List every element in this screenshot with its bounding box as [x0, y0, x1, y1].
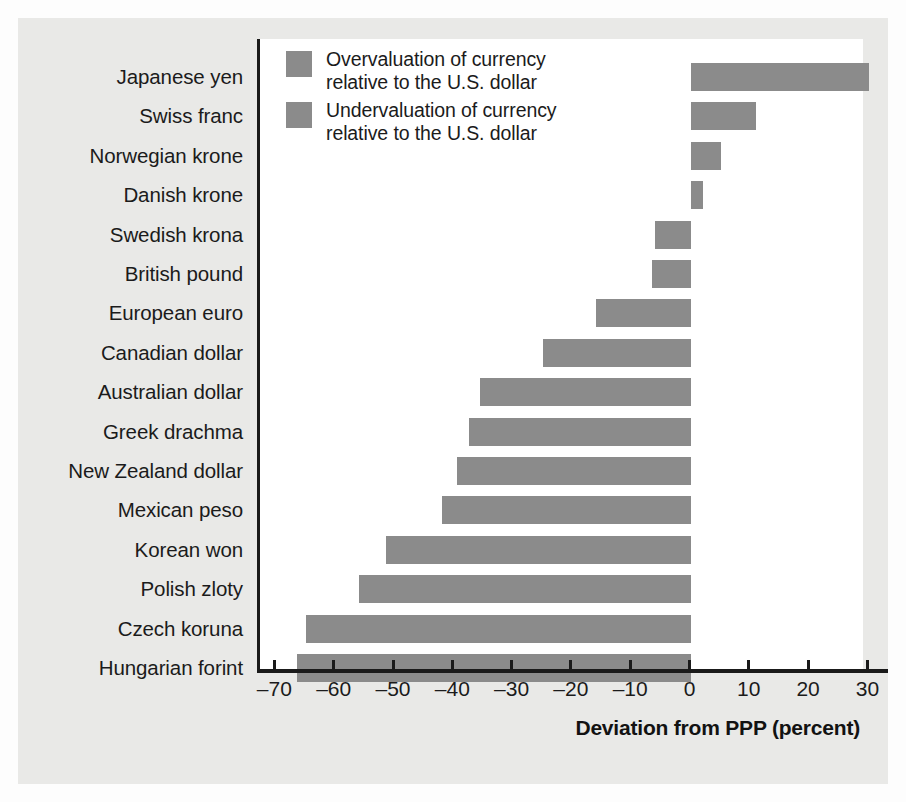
bar: [691, 181, 703, 209]
bar: [543, 339, 691, 367]
y-axis-label: European euro: [109, 302, 243, 324]
bar: [691, 102, 756, 130]
x-axis-tick-label: 30: [856, 677, 879, 701]
x-axis-tick: [273, 660, 276, 669]
x-axis-tick: [629, 660, 632, 669]
y-axis-label: Australian dollar: [98, 381, 243, 403]
y-axis-label: Hungarian forint: [99, 657, 243, 679]
bar: [359, 575, 691, 603]
x-axis-tick: [688, 660, 691, 669]
y-axis-label: Danish krone: [123, 184, 243, 206]
bar: [469, 418, 691, 446]
x-axis-tick: [332, 660, 335, 669]
bar: [596, 299, 691, 327]
x-axis-tick-label: –20: [553, 677, 588, 701]
y-axis-label: Korean won: [135, 539, 243, 561]
y-axis-label: Swiss franc: [139, 105, 243, 127]
x-axis-tick-label: –50: [375, 677, 410, 701]
bar: [691, 63, 869, 91]
figure-panel: Japanese yenSwiss francNorwegian kroneDa…: [18, 18, 888, 784]
bar: [691, 142, 721, 170]
bar: [655, 221, 691, 249]
x-axis-tick-label: –40: [435, 677, 470, 701]
x-axis-tick: [807, 660, 810, 669]
bar: [652, 260, 691, 288]
bar: [442, 496, 691, 524]
y-axis-label: Swedish krona: [110, 224, 243, 246]
x-axis-tick: [866, 660, 869, 669]
y-axis-category-labels: Japanese yenSwiss francNorwegian kroneDa…: [18, 39, 257, 669]
bar: [306, 615, 691, 643]
x-axis-tick-labels: –70–60–50–40–30–20–100102030: [257, 677, 888, 705]
x-axis-tick-label: –10: [613, 677, 648, 701]
bar: [386, 536, 691, 564]
bar: [480, 378, 691, 406]
x-axis-tick: [451, 660, 454, 669]
x-axis-tick-label: –70: [257, 677, 292, 701]
x-axis-tick-label: 10: [737, 677, 760, 701]
x-axis-tick: [569, 660, 572, 669]
x-axis-tick-label: –60: [316, 677, 351, 701]
legend-label: Undervaluation of currency relative to t…: [326, 99, 556, 145]
x-axis-title: Deviation from PPP (percent): [575, 716, 860, 740]
y-axis-label: Greek drachma: [103, 421, 243, 443]
y-axis-label: Japanese yen: [117, 66, 243, 88]
y-axis-label: British pound: [125, 263, 243, 285]
y-axis-label: Canadian dollar: [101, 342, 243, 364]
plot-area: Overvaluation of currency relative to th…: [257, 39, 863, 669]
y-axis-label: Norwegian krone: [90, 145, 243, 167]
x-axis-tick: [510, 660, 513, 669]
y-axis-label: Mexican peso: [118, 499, 243, 521]
x-axis-tick-label: 0: [684, 677, 696, 701]
x-axis-tick-label: –30: [494, 677, 529, 701]
legend-item-overvaluation: Overvaluation of currency relative to th…: [286, 48, 616, 94]
y-axis-label: Czech koruna: [118, 618, 243, 640]
y-axis-label: New Zealand dollar: [68, 460, 243, 482]
legend-swatch-icon: [286, 102, 312, 128]
x-axis-tick: [392, 660, 395, 669]
bar: [457, 457, 691, 485]
x-axis-tick-label: 20: [796, 677, 819, 701]
legend-swatch-icon: [286, 51, 312, 77]
x-axis-line: [257, 669, 888, 673]
chart-legend: Overvaluation of currency relative to th…: [286, 48, 616, 150]
legend-label: Overvaluation of currency relative to th…: [326, 48, 546, 94]
y-axis-label: Polish zloty: [141, 578, 243, 600]
x-axis-tick: [747, 660, 750, 669]
legend-item-undervaluation: Undervaluation of currency relative to t…: [286, 99, 616, 145]
